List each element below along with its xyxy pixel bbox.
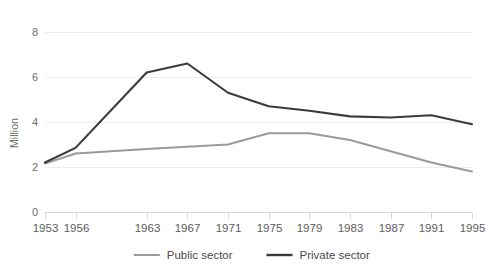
- x-tick-label: 1971: [216, 222, 242, 234]
- legend-label: Private sector: [300, 249, 370, 261]
- x-tick-label: 1963: [135, 222, 161, 234]
- y-tick-label: 0: [32, 206, 38, 218]
- chart-canvas: 02468 Million 19531956196319671971197519…: [0, 0, 500, 275]
- x-tick-label: 1975: [257, 222, 283, 234]
- x-tick-label: 1956: [64, 222, 90, 234]
- y-axis-title: Million: [8, 118, 20, 148]
- x-tick-label: 1979: [297, 222, 323, 234]
- x-tick-label: 1987: [379, 222, 405, 234]
- y-tick-label: 6: [32, 71, 38, 83]
- x-tick-label: 1991: [419, 222, 445, 234]
- y-tick-label: 8: [32, 26, 38, 38]
- x-tick-label: 1983: [338, 222, 364, 234]
- y-tick-label: 4: [32, 116, 38, 128]
- line-chart: 02468 Million 19531956196319671971197519…: [0, 0, 500, 275]
- x-tick-label: 1953: [33, 222, 59, 234]
- x-tick-label: 1995: [460, 222, 486, 234]
- x-tick-label: 1967: [175, 222, 201, 234]
- legend-label: Public sector: [167, 249, 233, 261]
- y-tick-label: 2: [32, 161, 38, 173]
